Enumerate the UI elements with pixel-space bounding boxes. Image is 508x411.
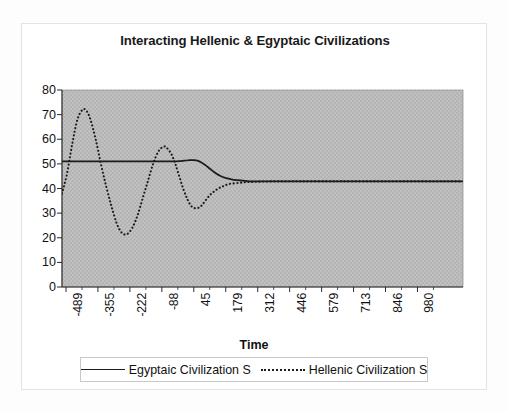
y-tick-label: 20 [26, 231, 56, 245]
x-tick-label: 713 [359, 293, 373, 313]
x-tick-label: -489 [71, 293, 85, 317]
y-tick-label: 80 [26, 83, 56, 97]
legend-label-hellenic: Hellenic Civilization S [309, 363, 427, 377]
chart-legend: Egyptaic Civilization S Hellenic Civiliz… [80, 357, 428, 382]
y-axis [57, 90, 62, 287]
y-tick-label: 10 [26, 255, 56, 269]
chart-figure: Interacting Hellenic & Egyptaic Civiliza… [0, 0, 508, 411]
x-tick-label: -88 [167, 293, 181, 310]
y-tick-label: 40 [26, 182, 56, 196]
x-tick-label: -355 [103, 293, 117, 317]
x-axis-title: Time [0, 338, 508, 352]
x-axis-tick-labels: -489-355-222-8845179312446579713846980 [0, 291, 508, 337]
legend-line-dotted-icon [261, 369, 305, 371]
legend-line-solid-icon [81, 369, 125, 370]
x-tick-label: 312 [263, 293, 277, 313]
x-tick-label: 846 [391, 293, 405, 313]
x-tick-label: 45 [199, 293, 213, 306]
y-tick-label: 70 [26, 108, 56, 122]
x-tick-label: 179 [231, 293, 245, 313]
y-tick-label: 30 [26, 206, 56, 220]
x-tick-label: 446 [295, 293, 309, 313]
x-tick-label: 579 [327, 293, 341, 313]
y-axis-tick-labels: 01020304050607080 [26, 82, 56, 290]
y-tick-label: 50 [26, 157, 56, 171]
y-tick-label: 60 [26, 132, 56, 146]
x-tick-label: -222 [135, 293, 149, 317]
legend-label-egyptaic: Egyptaic Civilization S [129, 363, 251, 377]
legend-item-egyptaic: Egyptaic Civilization S [81, 363, 251, 377]
plot-area-background [62, 90, 463, 287]
legend-item-hellenic: Hellenic Civilization S [261, 363, 427, 377]
x-tick-label: 980 [422, 293, 436, 313]
